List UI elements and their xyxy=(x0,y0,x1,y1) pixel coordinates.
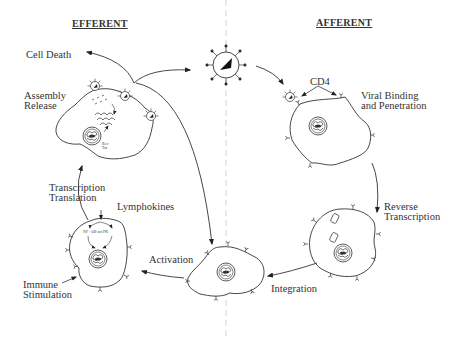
efferent-header: EFFERENT xyxy=(72,18,128,29)
label-activation: Activation xyxy=(149,255,193,265)
label-integration: Integration xyxy=(271,284,317,294)
label-cd4: CD4 xyxy=(310,77,330,87)
free-virion-icon xyxy=(206,45,246,85)
label-nf-kb: NF - kB-act PK xyxy=(83,230,108,234)
label-assembly-release: Assembly Release xyxy=(24,91,66,111)
label-immune-stimulation: Immune Stimulation xyxy=(23,280,72,300)
label-viral-binding: Viral Binding and Penetration xyxy=(361,91,427,111)
label-lymphokines: Lymphokines xyxy=(117,202,174,212)
afferent-header: AFFERENT xyxy=(316,17,372,28)
binding-virion-icon xyxy=(283,90,298,102)
cell-reverse-transcription xyxy=(304,205,381,281)
label-rev-tat: Rev Tat xyxy=(102,142,108,150)
label-reverse-transcription: Reverse Transcription xyxy=(384,202,440,222)
cell-activation xyxy=(186,242,265,301)
label-cell-death: Cell Death xyxy=(26,50,71,60)
label-transcription-translation: Transcription Translation xyxy=(49,183,105,203)
